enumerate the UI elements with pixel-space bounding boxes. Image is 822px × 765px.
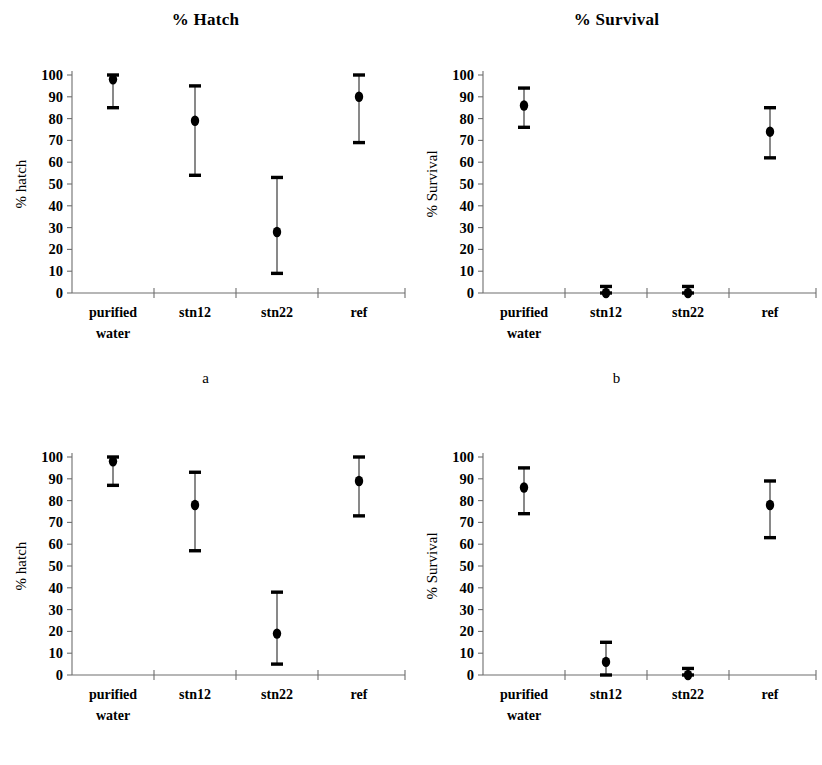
data-point-group [353, 457, 365, 516]
data-point-group [682, 668, 694, 680]
data-point-group [189, 472, 201, 550]
y-tick-label: 50 [49, 176, 64, 192]
x-tick-label: water [507, 708, 541, 722]
y-tick-label: 10 [460, 645, 475, 661]
y-tick-label: 40 [49, 198, 64, 214]
x-tick-label: stn22 [261, 305, 293, 320]
y-tick-label: 50 [49, 558, 64, 574]
y-tick-label: 20 [460, 241, 475, 257]
plot-a: 0102030405060708090100purifiedwaterstn12… [0, 0, 411, 340]
y-tick-label: 40 [460, 198, 475, 214]
data-point-group [600, 642, 612, 675]
y-tick-label: 60 [49, 536, 64, 552]
y-tick-label: 0 [467, 285, 474, 301]
y-axis-title: % Survival [424, 150, 440, 217]
y-tick-label: 20 [49, 623, 64, 639]
x-tick-label: water [507, 326, 541, 340]
y-tick-label: 30 [49, 602, 64, 618]
y-tick-label: 70 [49, 514, 64, 530]
y-tick-label: 100 [452, 67, 474, 83]
y-tick-label: 60 [460, 536, 475, 552]
panel-b: 0102030405060708090100purifiedwaterstn12… [411, 0, 822, 382]
y-tick-label: 80 [460, 111, 475, 127]
y-tick-label: 70 [460, 132, 475, 148]
y-tick-label: 20 [49, 241, 64, 257]
x-tick-label: ref [351, 687, 368, 702]
x-tick-label: purified [500, 305, 548, 320]
data-point-group [271, 592, 283, 664]
data-marker [355, 92, 363, 102]
y-tick-label: 0 [56, 667, 63, 683]
data-point-group [764, 108, 776, 158]
plot-b: 0102030405060708090100purifiedwaterstn12… [411, 0, 822, 340]
x-tick-label: stn12 [590, 305, 622, 320]
data-marker [520, 100, 528, 110]
y-axis-title: % hatch [13, 159, 29, 208]
y-tick-label: 80 [49, 493, 64, 509]
y-tick-label: 30 [460, 220, 475, 236]
y-tick-label: 90 [460, 471, 475, 487]
data-marker [602, 657, 610, 667]
data-marker [520, 482, 528, 492]
y-tick-label: 30 [49, 220, 64, 236]
data-marker [273, 227, 281, 237]
y-tick-label: 60 [49, 154, 64, 170]
y-tick-label: 50 [460, 176, 475, 192]
x-tick-label: purified [89, 687, 137, 702]
y-tick-label: 40 [49, 580, 64, 596]
x-tick-label: stn12 [179, 305, 211, 320]
y-tick-label: 50 [460, 558, 475, 574]
plot-d: 0102030405060708090100purifiedwaterstn12… [411, 382, 822, 722]
data-point-group [189, 86, 201, 175]
data-marker [109, 74, 117, 84]
y-tick-label: 70 [49, 132, 64, 148]
y-tick-label: 10 [49, 645, 64, 661]
data-marker [191, 500, 199, 510]
panel-c: 0102030405060708090100purifiedwaterstn12… [0, 382, 411, 764]
data-marker [602, 288, 610, 298]
y-tick-label: 20 [460, 623, 475, 639]
y-tick-label: 60 [460, 154, 475, 170]
y-tick-label: 80 [460, 493, 475, 509]
y-tick-label: 90 [49, 89, 64, 105]
data-point-group [764, 481, 776, 538]
plot-c: 0102030405060708090100purifiedwaterstn12… [0, 382, 411, 722]
y-tick-label: 100 [452, 449, 474, 465]
data-marker [191, 116, 199, 126]
x-tick-label: purified [89, 305, 137, 320]
y-tick-label: 0 [467, 667, 474, 683]
y-tick-label: 0 [56, 285, 63, 301]
x-tick-label: ref [762, 687, 779, 702]
y-tick-label: 100 [41, 67, 63, 83]
data-point-group [600, 286, 612, 298]
data-marker [355, 476, 363, 486]
data-point-group [682, 286, 694, 298]
data-marker [684, 670, 692, 680]
y-tick-label: 80 [49, 111, 64, 127]
y-axis-title: % Survival [424, 532, 440, 599]
y-tick-label: 90 [49, 471, 64, 487]
data-point-group [271, 177, 283, 273]
y-tick-label: 90 [460, 89, 475, 105]
y-tick-label: 10 [460, 263, 475, 279]
x-tick-label: stn12 [179, 687, 211, 702]
y-tick-label: 100 [41, 449, 63, 465]
data-point-group [518, 468, 530, 514]
x-tick-label: ref [351, 305, 368, 320]
data-marker [766, 500, 774, 510]
panel-a: 0102030405060708090100purifiedwaterstn12… [0, 0, 411, 382]
x-tick-label: stn22 [672, 687, 704, 702]
data-marker [684, 288, 692, 298]
figure-container: % Hatch % Survival 010203040506070809010… [0, 0, 822, 765]
x-tick-label: purified [500, 687, 548, 702]
data-marker [766, 126, 774, 136]
y-axis-title: % hatch [13, 541, 29, 590]
x-tick-label: water [96, 708, 130, 722]
y-tick-label: 10 [49, 263, 64, 279]
data-marker [109, 456, 117, 466]
data-point-group [107, 74, 119, 108]
x-tick-label: ref [762, 305, 779, 320]
data-point-group [518, 88, 530, 127]
x-tick-label: water [96, 326, 130, 340]
x-tick-label: stn22 [672, 305, 704, 320]
